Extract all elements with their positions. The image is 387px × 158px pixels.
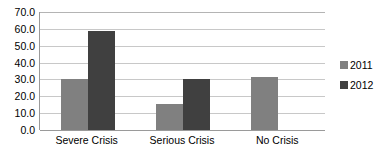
y-tick-label: 60.0 — [15, 24, 35, 35]
y-tick-label: 40.0 — [15, 57, 35, 68]
y-tick-label: 30.0 — [15, 74, 35, 85]
bars-group — [40, 12, 325, 130]
legend-label: 2012 — [350, 80, 373, 91]
plot-area — [39, 12, 325, 130]
legend-swatch-icon — [340, 81, 348, 89]
bar-2011-serious-crisis — [156, 104, 183, 130]
legend-label: 2011 — [350, 60, 373, 71]
x-tick-label: Serious Crisis — [150, 135, 215, 146]
bar-2012-serious-crisis — [183, 79, 210, 130]
y-tick-label: 10.0 — [15, 108, 35, 119]
bar-2012-severe-crisis — [88, 31, 115, 130]
y-tick-label: 70.0 — [15, 7, 35, 18]
bar-2011-no-crisis — [251, 77, 278, 130]
y-tick-label: 0.0 — [20, 125, 35, 136]
legend-item-2011: 2011 — [340, 60, 373, 71]
bar-2011-severe-crisis — [61, 79, 88, 130]
x-axis: Severe CrisisSerious CrisisNo Crisis — [39, 133, 325, 155]
legend-swatch-icon — [340, 61, 348, 69]
x-tick-label: Severe Crisis — [55, 135, 117, 146]
x-tick-label: No Crisis — [256, 135, 299, 146]
bar-chart: 70.060.050.040.030.020.010.00.0 Severe C… — [0, 0, 387, 158]
y-tick-label: 20.0 — [15, 91, 35, 102]
y-tick-label: 50.0 — [15, 40, 35, 51]
legend-item-2012: 2012 — [340, 80, 373, 91]
legend: 20112012 — [340, 60, 373, 90]
gridline — [40, 130, 325, 131]
y-axis: 70.060.050.040.030.020.010.00.0 — [0, 0, 37, 158]
